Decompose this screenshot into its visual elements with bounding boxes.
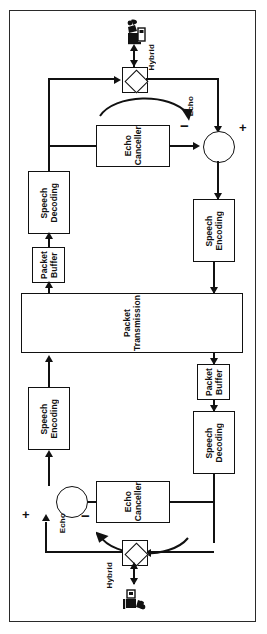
block-echo-canceller-top: Echo Canceller bbox=[96, 125, 170, 167]
arrowhead-up-sum-bottom bbox=[42, 514, 50, 521]
block-label: Speech Decoding bbox=[39, 183, 59, 223]
block-speech-encoding-bottom: Speech Encoding bbox=[28, 387, 70, 450]
bus-left-vertical-top bbox=[48, 79, 50, 171]
minus-sign-bottom: − bbox=[81, 508, 90, 523]
block-label: Speech Decoding bbox=[204, 423, 224, 463]
block-speech-decoding-bottom: Speech Decoding bbox=[193, 411, 235, 474]
arrowhead-up-decoding-top bbox=[45, 232, 53, 239]
telephone-with-person-icon-bottom bbox=[122, 587, 144, 613]
block-label: Packet Buffer bbox=[204, 368, 224, 396]
hybrid-label-top: Hybrid bbox=[147, 44, 156, 71]
arrowhead-down-hybrid-top bbox=[130, 60, 138, 67]
block-label: Packet Buffer bbox=[39, 251, 59, 279]
block-packet-transmission: Packet Transmission bbox=[21, 293, 243, 353]
block-packet-buffer-bottom: Packet Buffer bbox=[197, 364, 230, 400]
block-label: Packet Transmission bbox=[122, 295, 142, 351]
block-label: Speech Encoding bbox=[204, 211, 224, 251]
hybrid-label-bottom: Hybrid bbox=[105, 562, 114, 589]
summing-junction-icon-top bbox=[203, 131, 235, 163]
block-label: Echo Canceller bbox=[123, 482, 143, 521]
figure-caption bbox=[11, 625, 251, 634]
link-decoding-to-canceller-bottom bbox=[170, 501, 214, 503]
link-canceller-to-sum-top bbox=[170, 145, 195, 147]
arrowhead-up-buffer-top bbox=[45, 281, 53, 288]
bus-hybrid-to-sum-top bbox=[146, 78, 218, 80]
bus-hybrid-to-sum-bottom bbox=[45, 551, 122, 553]
link-sum-to-encoding-bottom bbox=[48, 452, 50, 486]
bus-left-vertical-bottom bbox=[45, 522, 47, 552]
arrowhead-up-transmission-bottom bbox=[45, 355, 53, 362]
bus-left-to-hybrid-top bbox=[48, 78, 115, 80]
arrowhead-up-encoding-bottom bbox=[45, 450, 53, 457]
bus-right-vertical-bottom bbox=[213, 474, 215, 543]
arrowhead-up-phone-top bbox=[130, 44, 138, 51]
block-packet-buffer-top: Packet Buffer bbox=[32, 247, 65, 283]
plus-sign-bottom: + bbox=[22, 508, 30, 521]
telephone-with-person-icon-top bbox=[126, 19, 148, 45]
block-label: Echo Canceller bbox=[123, 126, 143, 165]
link-decoding-to-canceller-top bbox=[48, 145, 96, 147]
block-speech-decoding-top: Speech Decoding bbox=[28, 171, 70, 234]
arrowhead-down-phone-bottom bbox=[130, 578, 138, 585]
plus-sign-top: + bbox=[239, 121, 247, 134]
bus-hybrid-down-top bbox=[217, 78, 219, 131]
arrowhead-right-sum-top bbox=[193, 142, 200, 150]
minus-sign-top: − bbox=[180, 118, 189, 133]
echo-label-bottom: Echo bbox=[58, 513, 67, 533]
block-label: Speech Encoding bbox=[39, 399, 59, 439]
hybrid-diamond-icon-top bbox=[122, 67, 148, 93]
block-echo-canceller-bottom: Echo Canceller bbox=[96, 481, 170, 523]
arrowhead-right-hybrid-top bbox=[114, 76, 121, 84]
arrowhead-up-hybrid-bottom bbox=[130, 562, 138, 569]
block-speech-encoding-top: Speech Encoding bbox=[193, 199, 235, 262]
figure-root: Hybrid Echo Echo Canceller + − Speech En… bbox=[0, 0, 267, 634]
